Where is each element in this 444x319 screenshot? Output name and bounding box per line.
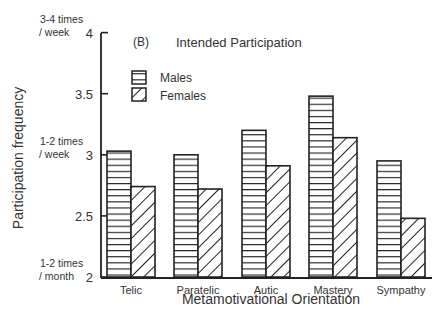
bar-paratelic-males — [174, 155, 198, 277]
y-tick-label: 3.5 — [75, 87, 93, 102]
y-tick-label: 2.5 — [75, 209, 93, 224]
y-annotation-line2: / week — [39, 148, 70, 160]
bar-sympathy-females — [401, 218, 425, 277]
legend: Males Females — [132, 71, 206, 103]
chart-title: Intended Participation — [176, 35, 302, 50]
legend-swatch-females — [132, 88, 146, 101]
bar-chart: (B) Intended Participation Males Females… — [0, 0, 444, 319]
legend-label-females: Females — [160, 89, 206, 103]
bar-mastery-males — [309, 96, 333, 277]
bar-mastery-females — [333, 138, 357, 277]
bar-autic-males — [242, 130, 266, 277]
bar-telic-males — [107, 151, 131, 277]
y-tick-label: 3 — [86, 148, 93, 163]
legend-swatch-males — [132, 71, 146, 84]
bar-paratelic-females — [198, 189, 222, 277]
y-axis-label: Participation frequency — [10, 87, 26, 229]
y-tick-label: 2 — [86, 270, 93, 285]
x-tick-label: Telic — [120, 284, 143, 296]
bar-sympathy-males — [377, 161, 401, 277]
bar-telic-females — [131, 187, 155, 277]
y-annotation-line1: 1-2 times — [40, 135, 83, 147]
bar-autic-females — [266, 166, 290, 277]
x-axis-label: Metamotivational Orientation — [182, 291, 360, 307]
y-annotation-line2: / week — [39, 26, 70, 38]
y-tick-label: 4 — [86, 26, 93, 41]
y-annotation-line2: / month — [39, 270, 74, 282]
panel-label: (B) — [133, 35, 149, 49]
x-tick-label: Sympathy — [377, 284, 426, 296]
y-annotation-line1: 3-4 times — [40, 13, 83, 25]
legend-label-males: Males — [160, 71, 192, 85]
y-annotation-line1: 1-2 times — [40, 257, 83, 269]
